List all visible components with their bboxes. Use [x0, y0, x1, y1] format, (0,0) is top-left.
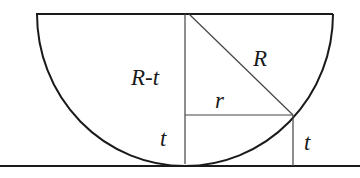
label-big-r: R — [252, 46, 267, 71]
hemisphere-diagram: R-t R r t t — [0, 0, 360, 178]
label-t-right: t — [304, 130, 311, 155]
label-t-center: t — [160, 126, 167, 151]
label-r-minus-t: R-t — [130, 65, 160, 90]
label-small-r: r — [215, 88, 225, 113]
radius-line — [189, 14, 293, 115]
